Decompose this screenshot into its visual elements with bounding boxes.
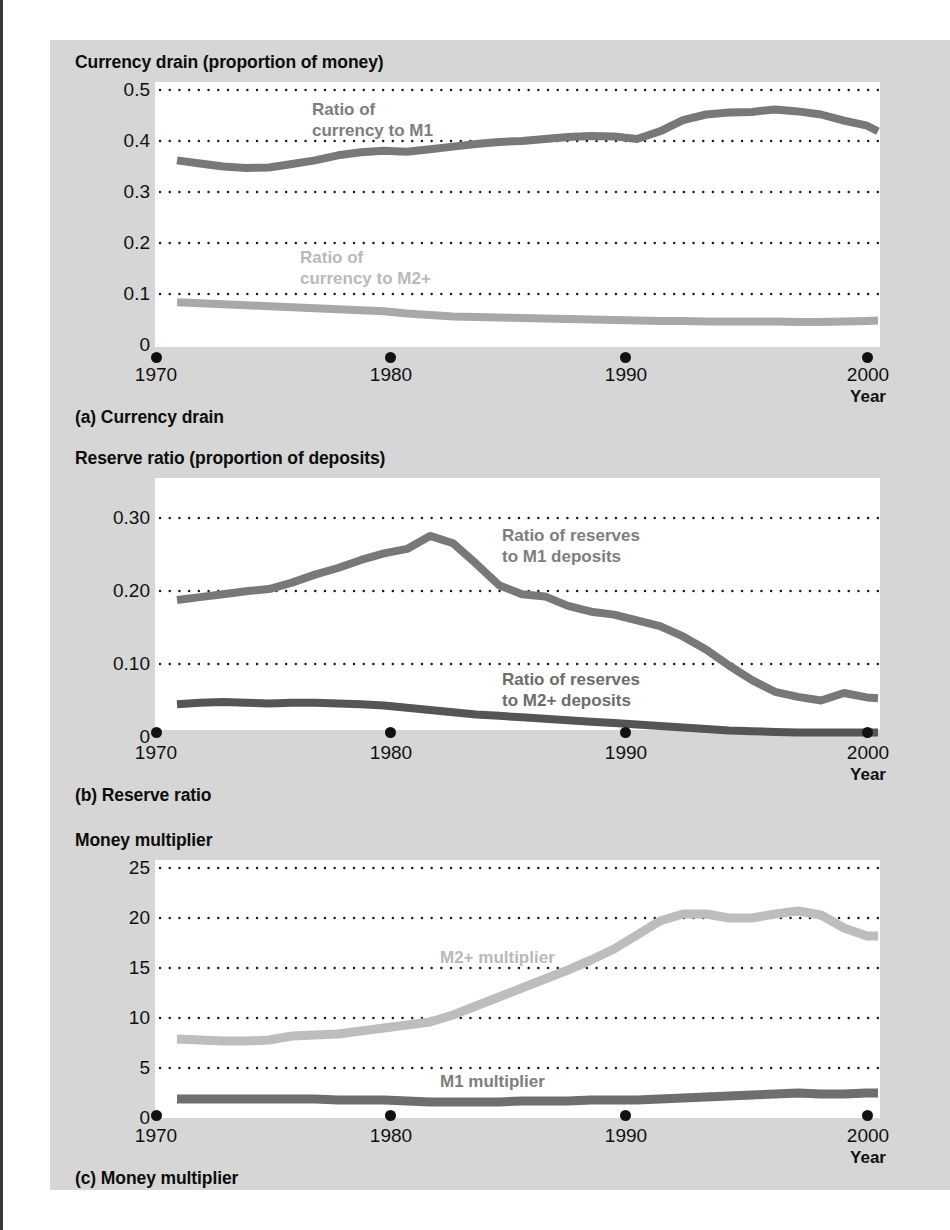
panel-c-xtick-dot-2000 (862, 1110, 873, 1121)
panel-c-xaxis-label: Year (828, 1148, 908, 1168)
panel-c-xtick-1970: 1970 (116, 1125, 196, 1147)
panel-c-label-m1-multiplier: M1 multiplier (440, 1072, 545, 1093)
panel-currency-drain: Currency drain (proportion of money) 0.5… (50, 40, 950, 430)
panel-c-caption: (c) Money multiplier (75, 1168, 238, 1189)
panel-a-xtick-dot-2000 (862, 352, 873, 363)
panel-c-xtick-dot-1990 (620, 1110, 631, 1121)
panel-a-xtick-dot-1970 (151, 352, 162, 363)
panel-b-label-reserves-to-m2plus: Ratio of reserves to M2+ deposits (502, 670, 640, 711)
panel-a-series-currency-to-m1 (177, 109, 878, 168)
panel-c-xtick-dot-1980 (385, 1110, 396, 1121)
panel-c-label-m2plus-multiplier: M2+ multiplier (440, 948, 555, 969)
panel-a-xtick-dot-1990 (620, 352, 631, 363)
panel-a-label-currency-to-m2plus: Ratio of currency to M2+ (300, 248, 431, 289)
panel-a-xtick-1990: 1990 (586, 364, 666, 386)
panel-a-series-currency-to-m2plus (177, 302, 878, 322)
panel-a-caption: (a) Currency drain (75, 407, 224, 428)
panel-a-xtick-2000: 2000 (828, 364, 908, 386)
panel-b-label-reserves-to-m1: Ratio of reserves to M1 deposits (502, 526, 640, 567)
figure-panel: Currency drain (proportion of money) 0.5… (50, 40, 950, 1190)
panel-c-series-m2plus-multiplier (177, 911, 878, 1041)
panel-a-label-currency-to-m1: Ratio of currency to M1 (312, 100, 433, 141)
panel-a-xtick-1970: 1970 (116, 364, 196, 386)
panel-a-xtick-1980: 1980 (351, 364, 431, 386)
panel-reserve-ratio: Reserve ratio (proportion of deposits) 0… (50, 430, 950, 820)
panel-b-xtick-1990: 1990 (586, 742, 666, 764)
panel-b-xaxis-label: Year (828, 765, 908, 785)
panel-b-xtick-dot-1990 (620, 727, 631, 738)
panel-b-xtick-1980: 1980 (351, 742, 431, 764)
panel-b-xtick-2000: 2000 (828, 742, 908, 764)
panel-a-xtick-dot-1980 (385, 352, 396, 363)
panel-money-multiplier: Money multiplier 25 20 15 10 5 0 M2+ mul… (50, 800, 950, 1190)
panel-c-series-m1-multiplier (177, 1093, 878, 1102)
panel-b-xtick-1970: 1970 (116, 742, 196, 764)
panel-c-xtick-dot-1970 (151, 1110, 162, 1121)
page-left-rule (0, 0, 3, 1230)
panel-c-xtick-1980: 1980 (351, 1125, 431, 1147)
panel-c-xtick-2000: 2000 (828, 1125, 908, 1147)
panel-b-xtick-dot-1980 (385, 727, 396, 738)
panel-b-xtick-dot-1970 (151, 727, 162, 738)
panel-b-xtick-dot-2000 (862, 727, 873, 738)
panel-c-xtick-1990: 1990 (586, 1125, 666, 1147)
panel-a-xaxis-label: Year (828, 387, 908, 407)
